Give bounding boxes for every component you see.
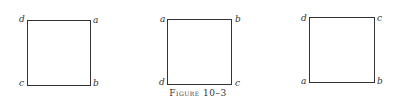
square-3-label-top-left: d [301,14,307,23]
square-1-label-top-left: d [19,15,25,24]
square-2-label-bottom-left: d [159,78,165,87]
square-1-label-bottom-right: b [93,79,99,88]
square-2-label-bottom-right: c [235,79,240,88]
square-3-label-top-right: c [377,14,382,23]
square-1-label-top-right: a [93,16,98,25]
figure-caption: Figure 10–3 [0,88,396,98]
square-1-label-bottom-left: c [19,79,24,88]
square-2-label-top-left: a [160,15,165,24]
square-3 [309,17,375,83]
square-2 [167,19,232,85]
square-1 [27,20,91,86]
square-2-label-top-right: b [235,15,241,24]
square-3-label-bottom-left: a [301,77,306,86]
square-3-label-bottom-right: b [377,77,383,86]
